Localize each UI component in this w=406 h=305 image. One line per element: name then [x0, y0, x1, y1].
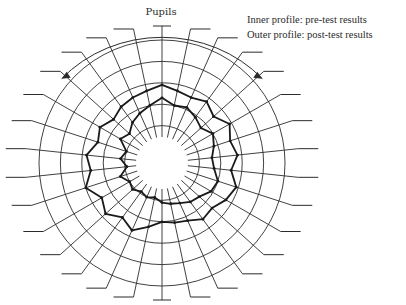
data-point [131, 96, 134, 99]
data-point [131, 121, 134, 124]
data-point [201, 218, 204, 221]
data-point [200, 127, 203, 130]
data-point [211, 207, 214, 210]
data-point [121, 216, 124, 219]
data-point [161, 201, 164, 204]
data-point [128, 132, 131, 135]
axis-spoke [106, 187, 151, 288]
data-point [145, 89, 148, 92]
axis-spoke [181, 71, 263, 145]
data-point [211, 156, 214, 159]
data-point [217, 180, 220, 183]
data-point [229, 139, 232, 142]
axis-spoke [181, 180, 263, 254]
data-point [119, 175, 122, 178]
axis-spoke [188, 149, 298, 161]
data-point [84, 186, 87, 189]
data-point [120, 105, 123, 108]
data-point [161, 96, 164, 99]
axis-spoke [188, 166, 298, 178]
data-point [128, 180, 131, 183]
data-point [228, 123, 231, 126]
data-point [112, 118, 115, 121]
data-point [145, 196, 148, 199]
data-point [126, 165, 129, 168]
data-point [104, 212, 107, 215]
data-point [213, 167, 216, 170]
data-point [185, 106, 188, 109]
data-point [125, 150, 128, 153]
data-point [178, 202, 181, 205]
data-point [176, 89, 179, 92]
data-point [169, 202, 172, 205]
data-point [212, 115, 215, 118]
data-point [85, 154, 88, 157]
data-point [186, 219, 189, 222]
legend-entry-inner: Inner profile: pre-test results [247, 12, 373, 27]
data-point [138, 112, 141, 115]
axis-spoke [187, 121, 293, 155]
data-point [235, 186, 238, 189]
data-point [140, 190, 143, 193]
data-point [99, 126, 102, 129]
legend-entry-outer: Outer profile: post-test results [247, 27, 373, 42]
data-point [161, 220, 164, 223]
data-point [131, 229, 134, 232]
data-point [210, 190, 213, 193]
axis-spoke [173, 38, 218, 139]
data-point [100, 196, 103, 199]
data-point [173, 104, 176, 107]
data-point [198, 195, 201, 198]
chart-title: Pupils [145, 6, 176, 17]
arrowhead-left [62, 72, 71, 79]
data-point [153, 196, 156, 199]
axis-spokes [6, 26, 318, 300]
data-point [119, 138, 122, 141]
data-point [189, 201, 192, 204]
legend: Inner profile: pre-test results Outer pr… [247, 12, 373, 42]
axis-spoke [60, 180, 142, 254]
axis-spoke [43, 176, 139, 232]
data-point [224, 198, 227, 201]
data-point [194, 116, 197, 119]
data-point [119, 157, 122, 160]
data-point [161, 84, 164, 87]
data-point [236, 154, 239, 157]
data-point [212, 145, 215, 148]
data-point [148, 104, 151, 107]
axis-spoke [187, 171, 293, 205]
data-point [205, 100, 208, 103]
data-point [173, 221, 176, 224]
data-point [147, 225, 150, 228]
data-point [89, 169, 92, 172]
data-point [190, 96, 193, 99]
data-point [230, 169, 233, 172]
data-point [97, 141, 100, 144]
axis-spoke [106, 38, 151, 139]
axis-spoke [185, 176, 281, 232]
data-point [212, 132, 215, 135]
arrowhead-right [253, 72, 262, 79]
radar-chart: Pupils [0, 0, 406, 305]
data-point [131, 188, 134, 191]
